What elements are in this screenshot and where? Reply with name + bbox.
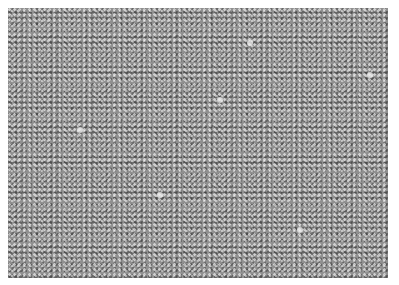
bright-spot [217, 97, 223, 103]
bright-spot [157, 192, 163, 198]
bright-spot [367, 72, 373, 78]
bright-spot [247, 40, 253, 46]
cell-micrograph [8, 8, 388, 278]
bright-spot [77, 127, 83, 133]
bright-spot [297, 227, 303, 233]
